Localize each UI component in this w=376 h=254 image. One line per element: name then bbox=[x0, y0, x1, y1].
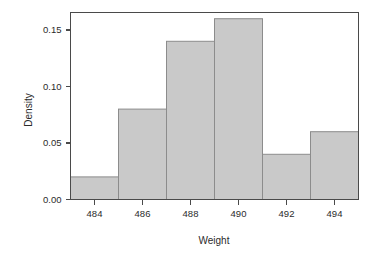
x-tick-label: 490 bbox=[231, 208, 247, 219]
x-tick-label: 494 bbox=[327, 208, 343, 219]
x-tick-label: 492 bbox=[279, 208, 295, 219]
y-tick-label: 0.15 bbox=[43, 24, 62, 35]
x-axis-title: Weight bbox=[199, 235, 230, 246]
y-tick-label: 0.05 bbox=[43, 137, 62, 148]
histogram-bar bbox=[215, 19, 263, 200]
histogram-bar bbox=[119, 109, 167, 199]
histogram-bar bbox=[263, 154, 311, 199]
y-axis-title: Density bbox=[23, 93, 34, 126]
x-tick-label: 484 bbox=[87, 208, 103, 219]
histogram-bar bbox=[311, 132, 359, 200]
histogram-bar bbox=[167, 41, 215, 199]
histogram-chart: 484486488490492494 0.000.050.100.15 Weig… bbox=[0, 0, 376, 254]
y-tick-label: 0.00 bbox=[43, 194, 62, 205]
chart-svg: 484486488490492494 0.000.050.100.15 Weig… bbox=[0, 0, 376, 254]
histogram-bar bbox=[71, 177, 119, 200]
x-tick-label: 488 bbox=[183, 208, 199, 219]
x-tick-label: 486 bbox=[135, 208, 151, 219]
y-tick-label: 0.10 bbox=[43, 81, 62, 92]
